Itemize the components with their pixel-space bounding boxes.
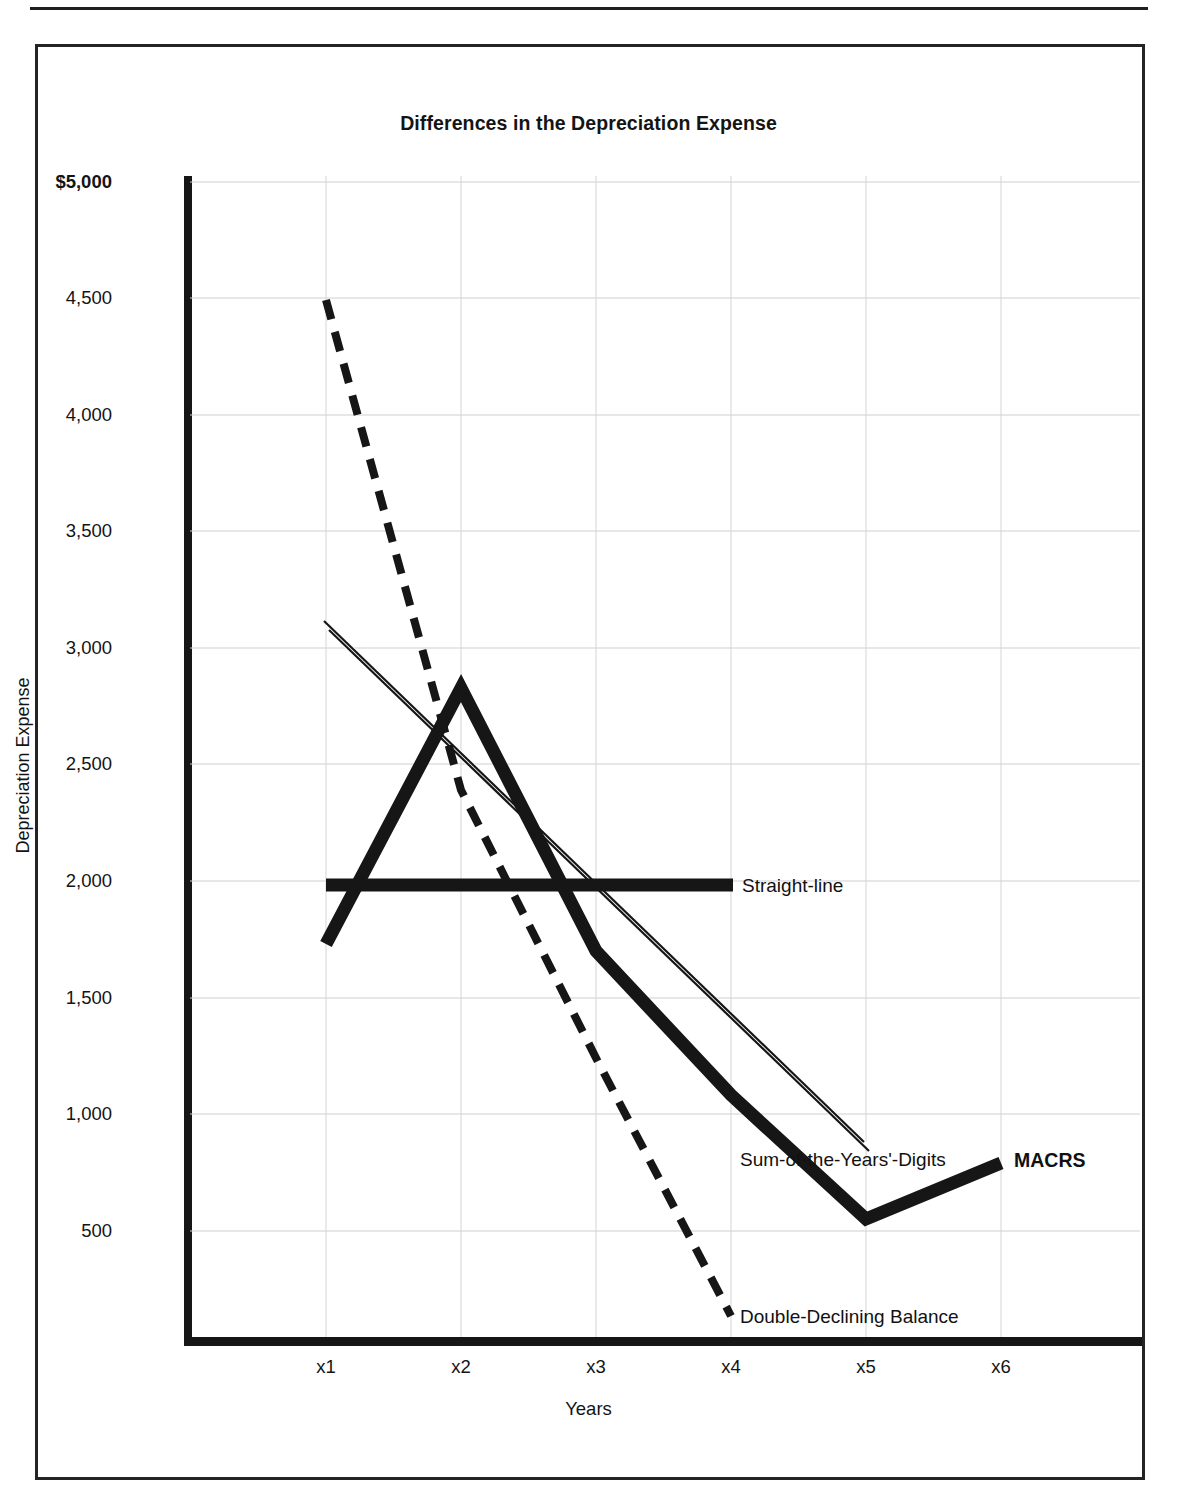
plot-canvas <box>0 0 1177 1510</box>
depreciation-expense-chart: Differences in the Depreciation Expense … <box>0 0 1177 1510</box>
gridlines-horizontal <box>190 182 1140 1231</box>
series-label-sum-of-the-years-digits: Sum-of-the-Years'-Digits <box>740 1149 946 1171</box>
series-label-double-declining-balance: Double-Declining Balance <box>740 1306 959 1328</box>
series-label-macrs: MACRS <box>1014 1149 1086 1172</box>
series-label-straight-line: Straight-line <box>742 875 843 897</box>
